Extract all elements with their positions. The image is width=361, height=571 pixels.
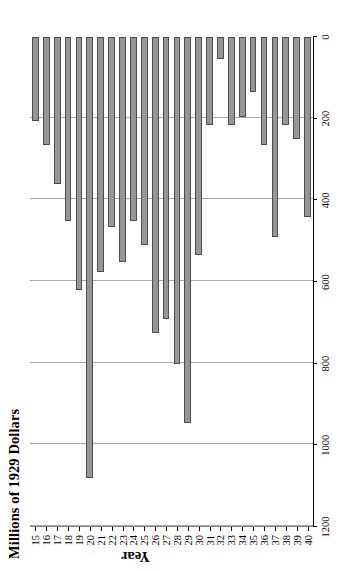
value-tick-label: 600 bbox=[320, 274, 331, 290]
category-tick-label: 25 bbox=[139, 535, 150, 571]
value-tick-label: 400 bbox=[320, 192, 331, 208]
bar bbox=[282, 37, 289, 125]
category-tick-label: 22 bbox=[106, 535, 117, 571]
category-tick-label: 36 bbox=[259, 535, 270, 571]
bar bbox=[65, 37, 72, 221]
category-tick-label: 18 bbox=[63, 535, 74, 571]
bar bbox=[174, 37, 181, 364]
category-tick bbox=[133, 527, 134, 531]
gridline bbox=[30, 362, 313, 363]
category-tick-label: 17 bbox=[52, 535, 63, 571]
bar bbox=[228, 37, 235, 125]
bar bbox=[250, 37, 257, 92]
category-tick-label: 19 bbox=[73, 535, 84, 571]
bar bbox=[76, 37, 83, 290]
category-tick-label: 15 bbox=[30, 535, 41, 571]
category-tick bbox=[177, 527, 178, 531]
value-tick bbox=[313, 36, 317, 37]
category-tick-label: 31 bbox=[204, 535, 215, 571]
bar bbox=[163, 37, 170, 319]
category-tick bbox=[46, 527, 47, 531]
category-tick bbox=[231, 527, 232, 531]
category-tick-label: 23 bbox=[117, 535, 128, 571]
value-tick-label: 1000 bbox=[320, 435, 331, 456]
value-tick bbox=[313, 444, 317, 445]
bar bbox=[86, 37, 93, 478]
category-tick-label: 39 bbox=[291, 535, 302, 571]
category-tick-label: 26 bbox=[150, 535, 161, 571]
category-tick bbox=[166, 527, 167, 531]
bar bbox=[43, 37, 50, 145]
value-tick bbox=[313, 526, 317, 527]
category-tick bbox=[308, 527, 309, 531]
category-tick-label: 34 bbox=[237, 535, 248, 571]
category-tick-label: 27 bbox=[161, 535, 172, 571]
category-tick bbox=[35, 527, 36, 531]
category-tick-label: 35 bbox=[248, 535, 259, 571]
value-tick-label: 200 bbox=[320, 111, 331, 127]
category-tick-label: 38 bbox=[280, 535, 291, 571]
value-tick-label: 0 bbox=[320, 34, 331, 39]
category-tick bbox=[199, 527, 200, 531]
category-tick-label: 32 bbox=[215, 535, 226, 571]
category-tick bbox=[144, 527, 145, 531]
category-tick bbox=[264, 527, 265, 531]
bar bbox=[97, 37, 104, 272]
value-tick bbox=[313, 199, 317, 200]
gridline bbox=[30, 280, 313, 281]
category-tick-label: 30 bbox=[193, 535, 204, 571]
category-tick bbox=[57, 527, 58, 531]
category-tick bbox=[155, 527, 156, 531]
category-tick-label: 40 bbox=[302, 535, 313, 571]
bar-chart-figure: Millions of 1929 Dollars Year 0200400600… bbox=[0, 0, 361, 571]
bar bbox=[141, 37, 148, 245]
category-axis-line bbox=[30, 526, 314, 527]
category-tick bbox=[286, 527, 287, 531]
category-tick bbox=[220, 527, 221, 531]
category-tick bbox=[188, 527, 189, 531]
category-tick-label: 16 bbox=[41, 535, 52, 571]
category-tick bbox=[253, 527, 254, 531]
bar bbox=[272, 37, 279, 237]
category-tick-label: 28 bbox=[171, 535, 182, 571]
category-tick bbox=[79, 527, 80, 531]
value-tick bbox=[313, 118, 317, 119]
category-tick bbox=[68, 527, 69, 531]
bar bbox=[119, 37, 126, 262]
category-tick-label: 33 bbox=[226, 535, 237, 571]
bar bbox=[108, 37, 115, 227]
value-tick bbox=[313, 281, 317, 282]
bar bbox=[217, 37, 224, 59]
bar bbox=[130, 37, 137, 221]
bar bbox=[261, 37, 268, 145]
value-tick-label: 1200 bbox=[320, 517, 331, 538]
category-tick bbox=[123, 527, 124, 531]
category-tick bbox=[275, 527, 276, 531]
bar bbox=[54, 37, 61, 184]
bar bbox=[304, 37, 311, 217]
category-tick bbox=[210, 527, 211, 531]
bar bbox=[239, 37, 246, 117]
value-tick-label: 800 bbox=[320, 356, 331, 372]
value-tick bbox=[313, 363, 317, 364]
category-tick-label: 29 bbox=[182, 535, 193, 571]
chart-title: Millions of 1929 Dollars bbox=[6, 409, 23, 559]
category-tick-label: 37 bbox=[269, 535, 280, 571]
gridline bbox=[30, 443, 313, 444]
bar bbox=[206, 37, 213, 125]
bar bbox=[184, 37, 191, 423]
category-tick-label: 20 bbox=[84, 535, 95, 571]
bar bbox=[32, 37, 39, 121]
category-tick-label: 21 bbox=[95, 535, 106, 571]
category-tick bbox=[112, 527, 113, 531]
category-tick-label: 24 bbox=[128, 535, 139, 571]
category-tick bbox=[297, 527, 298, 531]
category-tick bbox=[101, 527, 102, 531]
category-tick bbox=[90, 527, 91, 531]
bar bbox=[152, 37, 159, 333]
category-tick bbox=[242, 527, 243, 531]
bar bbox=[195, 37, 202, 255]
bar bbox=[293, 37, 300, 139]
